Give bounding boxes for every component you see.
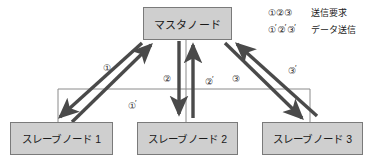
master-node[interactable]: マスタノード	[143, 7, 232, 40]
slave-node-2[interactable]: スレーブノード 2	[137, 122, 238, 155]
legend: ①②③ 送信要求 ①′②′③′ データ送信	[268, 7, 356, 38]
slave-node-3[interactable]: スレーブノード 3	[262, 122, 363, 155]
bus-line	[58, 40, 310, 122]
diagram-canvas: マスタノード スレーブノード 1 スレーブノード 2 スレーブノード 3 ① ①…	[0, 0, 375, 163]
arrow-data-3	[237, 44, 317, 116]
legend-symbols-data: ①′②′③′	[268, 21, 304, 38]
label-data-3: ③′	[288, 64, 298, 76]
label-request-2: ②	[163, 75, 171, 84]
legend-symbols-request: ①②③	[268, 7, 304, 21]
label-data-1: ①′	[128, 99, 138, 111]
legend-label-request: 送信要求	[311, 7, 347, 21]
label-request-3: ③	[232, 75, 240, 84]
slave-node-1[interactable]: スレーブノード 1	[10, 122, 113, 155]
label-request-1: ①	[103, 64, 111, 73]
legend-label-data: データ送信	[311, 24, 356, 38]
arrow-request-1	[72, 45, 151, 122]
label-data-2: ②′	[205, 75, 215, 87]
legend-row-request: ①②③ 送信要求	[268, 7, 356, 21]
legend-row-data: ①′②′③′ データ送信	[268, 21, 356, 38]
